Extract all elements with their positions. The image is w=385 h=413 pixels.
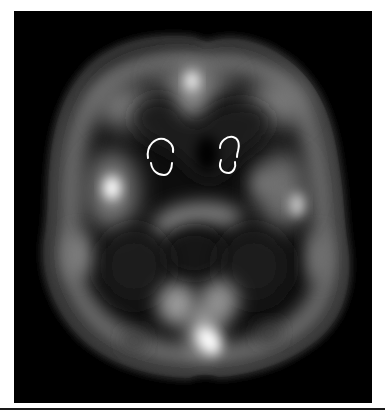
left-temporal-hotspot: [103, 176, 121, 200]
right-temporal-hotspot: [289, 193, 305, 217]
brain-spect-scan: [14, 11, 372, 403]
scan-image-panel: [14, 11, 372, 403]
bottom-divider-line: [0, 408, 385, 410]
